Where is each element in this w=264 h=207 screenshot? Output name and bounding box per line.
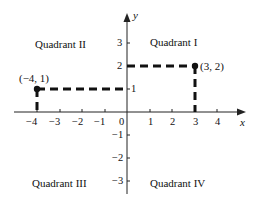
x-tick-neg3: −3 — [49, 117, 60, 128]
point-neg4-1 — [34, 86, 40, 92]
x-axis-label: x — [240, 117, 245, 128]
y-tick-neg3: −3 — [112, 176, 123, 187]
quadrant-iii-label: Quadrant III — [32, 178, 87, 189]
quadrant-ii-label: Quadrant II — [35, 39, 86, 50]
point-label-3-2: (3, 2) — [200, 61, 224, 72]
quadrant-i-label: Quadrant I — [150, 37, 197, 48]
x-axis-arrow-icon — [237, 109, 246, 116]
x-tick-neg4: −4 — [26, 117, 37, 128]
y-tick-2: 2 — [117, 61, 122, 72]
dashed-guides — [37, 66, 195, 112]
y-tick-neg1: −1 — [112, 130, 123, 141]
y-axis-label: y — [133, 10, 138, 21]
x-tick-neg2: −2 — [72, 117, 83, 128]
point-3-2 — [192, 63, 198, 69]
y-tick-neg2: −2 — [112, 153, 123, 164]
x-tick-4: 4 — [215, 117, 220, 128]
y-tick-3: 3 — [117, 38, 122, 49]
x-tick-3: 3 — [193, 117, 198, 128]
x-tick-1: 1 — [148, 117, 153, 128]
quadrant-iv-label: Quadrant IV — [150, 178, 205, 189]
x-tick-2: 2 — [170, 117, 175, 128]
x-tick-neg1: −1 — [94, 117, 105, 128]
coordinate-plane — [0, 0, 264, 207]
x-tick-0: 0 — [119, 117, 124, 128]
y-tick-1: 1 — [131, 84, 136, 95]
y-axis-arrow-icon — [124, 13, 131, 22]
point-label-neg4-1: (−4, 1) — [19, 73, 49, 84]
